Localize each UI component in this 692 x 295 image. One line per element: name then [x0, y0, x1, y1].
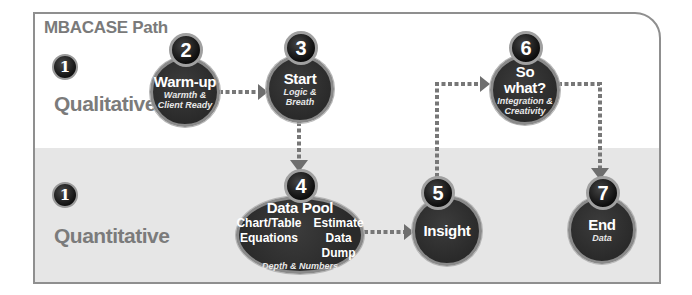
step-so-what: So what? Integration & Creativity: [490, 55, 560, 125]
step-number-badge: 3: [284, 31, 318, 65]
step-subtitle: Logic & Breath: [269, 87, 331, 107]
diagram-title: MBACASE Path: [44, 18, 168, 38]
step-subtitle: Data: [592, 233, 612, 243]
data-pool-item: Equations: [236, 231, 301, 261]
step-name: Warm-up: [154, 74, 216, 90]
step-number-badge: 6: [509, 31, 543, 65]
quantitative-label: Quantitative: [54, 224, 169, 248]
qualitative-number-badge: 1: [52, 54, 78, 80]
step-subtitle: Client Ready: [158, 100, 213, 110]
data-pool-items: Chart/Table Estimate Equations Data Dump: [236, 216, 363, 261]
data-pool-item: Data Dump: [314, 231, 364, 261]
step-name: Start: [284, 71, 317, 87]
step-subtitle: Integration &: [497, 96, 553, 106]
step-name: So what?: [493, 64, 557, 96]
step-name: End: [588, 217, 615, 233]
step-number-badge: 4: [284, 169, 318, 203]
data-pool-item: Chart/Table: [236, 216, 301, 231]
step-data-pool: Data Pool Chart/Table Estimate Equations…: [236, 196, 364, 274]
step-start: Start Logic & Breath: [266, 55, 334, 123]
step-subtitle: Depth & Numbers: [262, 261, 338, 271]
step-number-badge: 5: [421, 176, 455, 210]
qualitative-label: Qualitative: [54, 92, 156, 116]
step-warm-up: Warm-up Warmth & Client Ready: [150, 57, 220, 127]
step-name: Insight: [423, 223, 470, 239]
data-pool-item: Estimate: [314, 216, 364, 231]
step-subtitle: Creativity: [504, 106, 545, 116]
step-subtitle: Warmth &: [164, 90, 206, 100]
step-number-badge: 2: [169, 33, 203, 67]
quantitative-number-badge: 1: [52, 182, 78, 208]
step-number-badge: 7: [586, 176, 620, 210]
